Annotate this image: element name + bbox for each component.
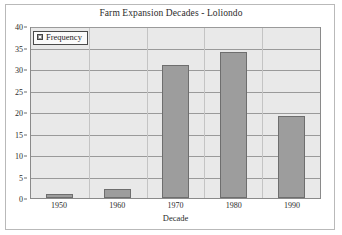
legend-square-icon bbox=[37, 34, 43, 40]
bar-1960[interactable] bbox=[104, 189, 131, 198]
plot-area bbox=[30, 27, 321, 199]
chart-container: Farm Expansion Decades - Loliondo 051015… bbox=[0, 0, 342, 235]
bar-1980[interactable] bbox=[220, 52, 247, 198]
chart-title: Farm Expansion Decades - Loliondo bbox=[0, 8, 342, 18]
y-axis-tick-label: 40 bbox=[15, 23, 23, 32]
legend-label-frequency: Frequency bbox=[46, 33, 82, 42]
bar-1990[interactable] bbox=[278, 116, 305, 198]
x-axis-tick-label: 1950 bbox=[30, 201, 88, 210]
x-axis-tick-label: 1970 bbox=[146, 201, 204, 210]
bar-slot bbox=[31, 28, 89, 198]
y-axis-tick-label: 35 bbox=[15, 44, 23, 53]
bars-layer bbox=[31, 28, 320, 198]
y-axis-tick bbox=[24, 134, 27, 135]
y-axis-tick-label: 20 bbox=[15, 109, 23, 118]
bar-1970[interactable] bbox=[162, 65, 189, 198]
y-axis-tick bbox=[24, 156, 27, 157]
y-axis-tick bbox=[24, 113, 27, 114]
y-axis-tick bbox=[24, 27, 27, 28]
y-axis-tick bbox=[24, 91, 27, 92]
y-axis-tick bbox=[24, 177, 27, 178]
chart-legend: Frequency bbox=[33, 31, 88, 45]
bar-slot bbox=[147, 28, 205, 198]
y-axis-tick bbox=[24, 199, 27, 200]
y-axis-tick-label: 0 bbox=[19, 195, 23, 204]
y-axis-tick-label: 25 bbox=[15, 87, 23, 96]
y-axis-tick bbox=[24, 70, 27, 71]
bar-1950[interactable] bbox=[46, 194, 73, 198]
x-axis-tick-label: 1990 bbox=[263, 201, 321, 210]
y-axis-tick bbox=[24, 48, 27, 49]
x-axis-tick-labels: 19501960197019801990 bbox=[30, 201, 321, 210]
bar-slot bbox=[89, 28, 147, 198]
y-axis-tick-label: 10 bbox=[15, 152, 23, 161]
y-axis-tick-label: 15 bbox=[15, 130, 23, 139]
y-axis: 0510152025303540 bbox=[0, 27, 27, 199]
bar-slot bbox=[262, 28, 320, 198]
x-axis-title: Decade bbox=[30, 213, 321, 223]
bar-slot bbox=[204, 28, 262, 198]
y-axis-tick-label: 5 bbox=[19, 173, 23, 182]
x-axis-tick-label: 1960 bbox=[88, 201, 146, 210]
y-axis-tick-label: 30 bbox=[15, 66, 23, 75]
x-axis-tick-label: 1980 bbox=[205, 201, 263, 210]
